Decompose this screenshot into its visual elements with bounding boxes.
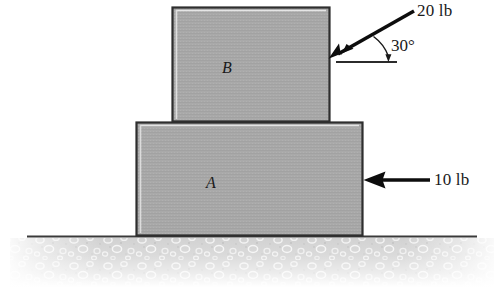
block-label-a: A <box>206 174 216 192</box>
block-b <box>172 7 330 122</box>
force-arrow-10lb <box>364 172 431 189</box>
ground <box>0 237 504 287</box>
block-a <box>136 122 363 236</box>
force-label-10lb: 10 lb <box>434 170 469 190</box>
force-label-20lb: 20 lb <box>417 1 452 21</box>
physics-diagram: 20 lb 30° 10 lb B A <box>0 0 504 287</box>
angle-arc <box>374 37 389 57</box>
block-label-b: B <box>222 59 232 77</box>
force-10lb-arrowhead <box>364 172 386 189</box>
angle-label-30deg: 30° <box>391 36 415 56</box>
diagram-canvas <box>0 0 504 287</box>
